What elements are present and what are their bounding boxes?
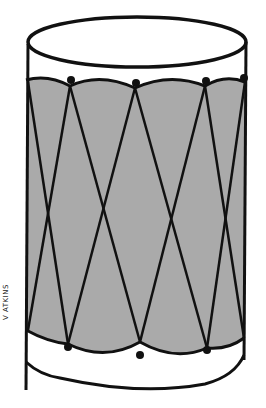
drum-head: [28, 17, 246, 67]
top-peg: [132, 79, 140, 87]
top-peg: [240, 74, 248, 82]
top-peg: [67, 76, 75, 84]
bottom-peg: [64, 343, 72, 351]
bottom-peg: [203, 346, 211, 354]
artist-signature: V ATKINS: [2, 284, 10, 320]
top-peg: [202, 77, 210, 85]
drum-bottom-rim: [26, 355, 244, 389]
drum-illustration: [0, 0, 266, 408]
drum-left-wall: [26, 44, 28, 390]
bottom-peg: [136, 351, 144, 359]
